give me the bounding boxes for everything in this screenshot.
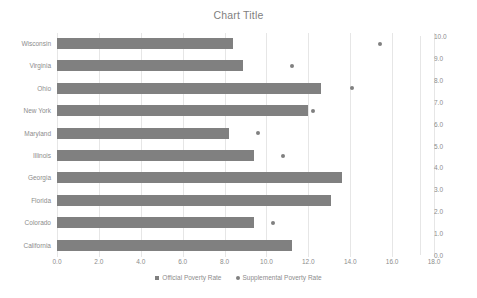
secondary-y-axis-tick: 10.0: [434, 33, 447, 40]
point-supplemental-poverty-rate[interactable]: [271, 221, 275, 225]
legend-item-supplemental-poverty-rate[interactable]: Supplemental Poverty Rate: [236, 274, 322, 281]
chart-row: [57, 33, 434, 55]
category-label-maryland: Maryland: [24, 123, 51, 145]
chart-row: [57, 123, 434, 145]
secondary-y-axis-tick: 1.0: [434, 230, 443, 237]
category-label-new-york: New York: [24, 100, 51, 122]
bar-official-poverty-rate[interactable]: [57, 38, 233, 49]
category-label-wisconsin: Wisconsin: [21, 33, 51, 55]
chart-row: [57, 190, 434, 212]
plot-area: [57, 33, 434, 257]
x-axis-tick: 0.0: [52, 258, 61, 265]
secondary-y-axis-tick: 3.0: [434, 186, 443, 193]
chart-row: [57, 145, 434, 167]
secondary-y-axis-tick: 8.0: [434, 76, 443, 83]
secondary-y-axis-tick: 9.0: [434, 54, 443, 61]
x-axis-tick: 6.0: [178, 258, 187, 265]
x-axis-tick: 10.0: [260, 258, 273, 265]
legend-dot-icon: [236, 276, 240, 280]
chart-row: [57, 55, 434, 77]
secondary-y-axis-tick: 0.0: [434, 252, 443, 259]
point-supplemental-poverty-rate[interactable]: [311, 109, 315, 113]
point-supplemental-poverty-rate[interactable]: [256, 131, 260, 135]
point-supplemental-poverty-rate[interactable]: [281, 154, 285, 158]
category-label-colorado: Colorado: [25, 212, 51, 234]
point-supplemental-poverty-rate[interactable]: [378, 42, 382, 46]
secondary-y-axis-tick: 5.0: [434, 142, 443, 149]
x-axis-tick: 2.0: [94, 258, 103, 265]
bar-official-poverty-rate[interactable]: [57, 150, 254, 161]
secondary-y-axis-tick: 6.0: [434, 120, 443, 127]
point-supplemental-poverty-rate[interactable]: [290, 64, 294, 68]
category-label-illinois: Illinois: [33, 145, 51, 167]
bar-official-poverty-rate[interactable]: [57, 195, 331, 206]
secondary-y-axis-tick: 2.0: [434, 208, 443, 215]
point-supplemental-poverty-rate[interactable]: [350, 86, 354, 90]
x-axis-tick: 4.0: [136, 258, 145, 265]
bar-official-poverty-rate[interactable]: [57, 217, 254, 228]
category-label-california: California: [24, 235, 51, 257]
x-axis-tick: 16.0: [386, 258, 399, 265]
secondary-axis: 0.01.02.03.04.05.06.07.08.09.010.0: [412, 28, 477, 263]
chart-row: [57, 167, 434, 189]
chart-row: [57, 235, 434, 257]
legend-label: Supplemental Poverty Rate: [243, 274, 322, 281]
bar-official-poverty-rate[interactable]: [57, 60, 243, 71]
bar-official-poverty-rate[interactable]: [57, 172, 342, 183]
legend-square-icon: [155, 276, 159, 280]
bar-official-poverty-rate[interactable]: [57, 128, 229, 139]
chart-container: Chart Title WisconsinVirginiaOhioNew Yor…: [0, 0, 477, 298]
category-label-virginia: Virginia: [29, 55, 51, 77]
chart-row: [57, 78, 434, 100]
chart-legend: Official Poverty RateSupplemental Povert…: [0, 274, 477, 281]
chart-row: [57, 100, 434, 122]
x-axis-tick: 8.0: [220, 258, 229, 265]
bar-official-poverty-rate[interactable]: [57, 105, 308, 116]
category-label-ohio: Ohio: [37, 78, 51, 100]
value-axis-ticks: 0.02.04.06.08.010.012.014.016.018.0: [57, 258, 434, 272]
chart-title: Chart Title: [0, 9, 477, 21]
secondary-axis-line: [420, 36, 421, 255]
legend-item-official-poverty-rate[interactable]: Official Poverty Rate: [155, 274, 221, 281]
x-axis-tick: 14.0: [344, 258, 357, 265]
bar-official-poverty-rate[interactable]: [57, 240, 292, 251]
chart-row: [57, 212, 434, 234]
category-axis-labels: WisconsinVirginiaOhioNew YorkMarylandIll…: [0, 33, 54, 257]
legend-label: Official Poverty Rate: [162, 274, 221, 281]
category-label-florida: Florida: [31, 190, 51, 212]
category-label-georgia: Georgia: [28, 167, 51, 189]
secondary-y-axis-tick: 4.0: [434, 164, 443, 171]
secondary-y-axis-tick: 7.0: [434, 98, 443, 105]
x-axis-tick: 12.0: [302, 258, 315, 265]
bar-official-poverty-rate[interactable]: [57, 83, 321, 94]
